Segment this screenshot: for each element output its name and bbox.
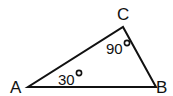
- degree-symbol-a-icon: [76, 70, 81, 75]
- angle-label-a-value: 30: [58, 71, 75, 88]
- vertex-label-a: A: [10, 78, 22, 96]
- vertex-label-b: B: [156, 78, 167, 96]
- triangle-abc: [28, 27, 156, 87]
- angle-label-c-value: 90: [106, 40, 123, 57]
- vertex-label-c: C: [117, 5, 129, 24]
- triangle-diagram: A B C 90 30: [0, 0, 173, 96]
- degree-symbol-c-icon: [124, 40, 129, 45]
